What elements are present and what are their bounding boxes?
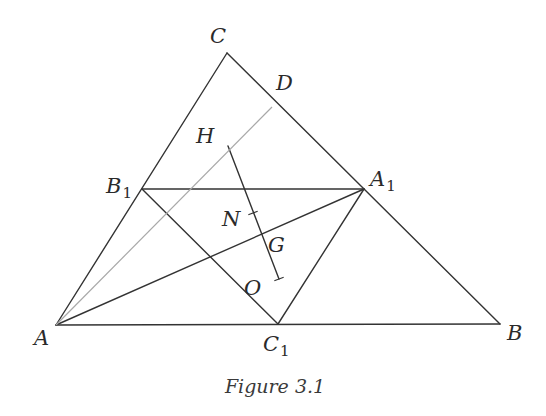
- point-label-subscript: 1: [386, 177, 396, 195]
- point-label-a: A: [32, 326, 49, 350]
- figure-caption: Figure 3.1: [224, 375, 325, 397]
- point-label-c: C: [210, 24, 226, 48]
- point-label-n: N: [221, 207, 241, 231]
- point-label-b: B: [506, 321, 522, 345]
- point-label-a1: A1: [368, 167, 396, 195]
- geometry-figure: ABCDHNGOA1B1C1 Figure 3.1: [0, 0, 546, 416]
- point-label-d: D: [275, 71, 293, 95]
- point-label-o: O: [244, 276, 261, 300]
- figure-point-labels: ABCDHNGOA1B1C1: [32, 24, 522, 360]
- segment-midline-c1a1: [278, 189, 364, 324]
- point-label-b1: B1: [105, 174, 132, 202]
- point-label-subscript: 1: [280, 342, 290, 360]
- point-label-c1: C1: [263, 332, 290, 360]
- point-label-g: G: [268, 233, 285, 257]
- point-label-subscript: 1: [122, 184, 132, 202]
- segment-median-aa1: [56, 189, 364, 325]
- point-label-h: H: [195, 124, 215, 148]
